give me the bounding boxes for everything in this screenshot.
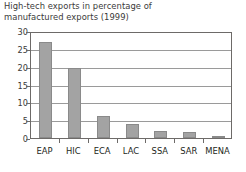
y-axis-tick-label: 30 (6, 28, 28, 36)
x-axis-tick-mark (203, 139, 204, 143)
x-axis-tick-mark (117, 139, 118, 143)
y-axis-tick-label: 15 (6, 82, 28, 90)
bar-hic (68, 68, 81, 138)
x-axis-tick-mark (59, 139, 60, 143)
x-axis-tick-mark (145, 139, 146, 143)
x-axis-tick-mark (174, 139, 175, 143)
y-axis-tick-mark (26, 139, 30, 140)
y-axis-tick-label: 25 (6, 46, 28, 54)
chart-figure: High-tech exports in percentage of manuf… (0, 0, 246, 172)
bar-mena (212, 136, 225, 138)
y-axis-tick-label: 10 (6, 99, 28, 107)
bar-sar (183, 132, 196, 138)
bar-eap (39, 42, 52, 138)
y-axis-tick-label: 5 (6, 117, 28, 125)
bar-eca (97, 116, 110, 138)
bar-lac (126, 124, 139, 138)
chart-title: High-tech exports in percentage of manuf… (4, 1, 242, 23)
bar-series (31, 33, 231, 138)
plot-area (30, 32, 232, 139)
x-axis-tick-mark (88, 139, 89, 143)
x-axis-tick-label: MENA (194, 146, 242, 156)
y-axis-tick-label: 20 (6, 64, 28, 72)
y-axis-tick-label: 0 (6, 135, 28, 143)
bar-ssa (154, 131, 167, 138)
